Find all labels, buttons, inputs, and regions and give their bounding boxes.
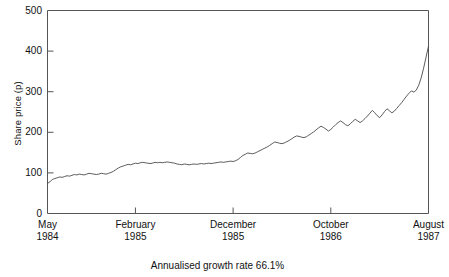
chart-caption: Annualised growth rate 66.1% [0,260,435,271]
y-tick-marks [48,51,54,173]
x-tick-marks [135,208,330,214]
share-price-line [48,46,429,183]
